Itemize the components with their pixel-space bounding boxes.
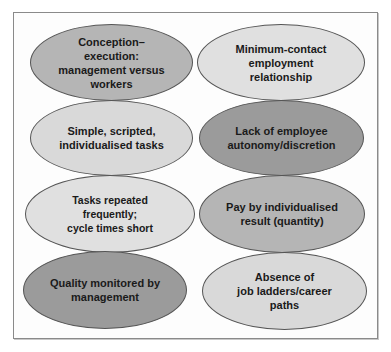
ellipse-conception-execution: Conception– execution: management versus… (30, 24, 193, 101)
ellipse-label: Simple, scripted, individualised tasks (59, 124, 164, 152)
ellipse-simple-scripted-tasks: Simple, scripted, individualised tasks (30, 100, 193, 176)
ellipse-label: Pay by individualised result (quantity) (226, 200, 338, 228)
ellipse-minimum-contact: Minimum-contact employment relationship (197, 24, 365, 101)
ellipse-label: Lack of employee autonomy/discretion (227, 124, 335, 152)
ellipse-lack-of-autonomy: Lack of employee autonomy/discretion (199, 100, 364, 176)
ellipse-label: Tasks repeated frequently; cycle times s… (48, 193, 172, 235)
ellipse-pay-by-result: Pay by individualised result (quantity) (199, 175, 365, 253)
ellipse-label: Minimum-contact employment relationship (235, 42, 326, 84)
ellipse-label: Quality monitored by management (50, 276, 160, 304)
ellipse-label: Absence of job ladders/career paths (237, 270, 332, 312)
ellipse-tasks-repeated: Tasks repeated frequently; cycle times s… (25, 175, 195, 253)
ellipse-quality-monitored: Quality monitored by management (23, 251, 187, 329)
ellipse-absence-of-job-ladders: Absence of job ladders/career paths (202, 252, 367, 330)
ellipse-label: Conception– execution: management versus… (58, 35, 164, 91)
